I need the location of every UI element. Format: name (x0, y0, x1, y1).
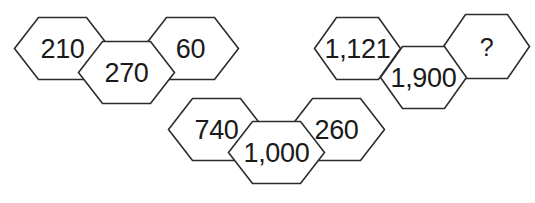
hexagon-value-270: 270 (104, 58, 148, 88)
hexagon-cluster-2: 740 260 1,000 (169, 99, 385, 184)
hexagon-value-1000: 1,000 (243, 138, 309, 168)
hexagon-cluster-1: 210 60 270 (15, 18, 239, 104)
hexagon-value-unknown: ? (480, 33, 494, 61)
hexagon-value-740: 740 (194, 115, 238, 145)
hexagon-value-1121: 1,121 (324, 34, 390, 64)
hexagon-value-260: 260 (314, 115, 358, 145)
hexagon-value-60: 60 (176, 34, 205, 64)
hexagon-puzzle-canvas: 210 60 270 740 260 1,000 (0, 0, 535, 203)
hexagon-diagram: 210 60 270 740 260 1,000 (0, 0, 535, 203)
hexagon-value-210: 210 (40, 34, 84, 64)
hexagon-cluster-3: 1,121 ? 1,900 (315, 15, 530, 109)
hexagon-value-1900: 1,900 (390, 63, 456, 93)
